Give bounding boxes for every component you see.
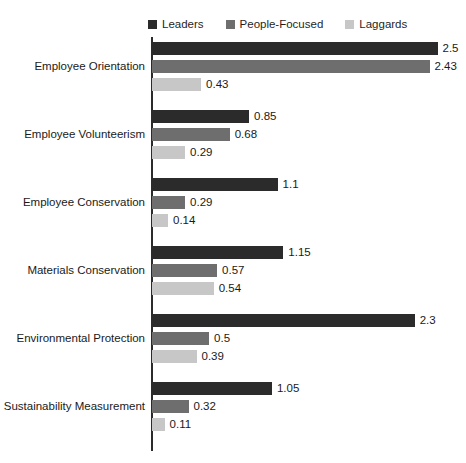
bar-row: 0.29 xyxy=(152,196,213,209)
bar-leaders[interactable] xyxy=(152,382,272,395)
bar-row: 0.39 xyxy=(152,350,224,363)
bar-value-label: 2.5 xyxy=(443,42,459,55)
bar-row: 0.85 xyxy=(152,110,276,123)
bar-group: Employee Orientation2.52.430.43 xyxy=(0,37,466,105)
category-axis-label: Environmental Protection xyxy=(0,332,145,345)
plot-area: Employee Orientation2.52.430.43Employee … xyxy=(0,37,466,452)
bar-leaders[interactable] xyxy=(152,42,438,55)
bar-row: 0.11 xyxy=(152,418,191,431)
bar-leaders[interactable] xyxy=(152,178,278,191)
bar-group: Employee Volunteerism0.850.680.29 xyxy=(0,105,466,173)
bar-value-label: 0.68 xyxy=(235,128,257,141)
bar-value-label: 1.1 xyxy=(283,178,299,191)
legend-item-leaders[interactable]: Leaders xyxy=(148,18,204,30)
bar-chart: LeadersPeople-FocusedLaggards Employee O… xyxy=(0,0,466,463)
bar-group: Employee Conservation1.10.290.14 xyxy=(0,173,466,241)
legend-swatch-icon xyxy=(345,20,354,29)
bar-laggards[interactable] xyxy=(152,350,197,363)
bar-row: 0.68 xyxy=(152,128,257,141)
bar-row: 0.32 xyxy=(152,400,216,413)
bar-row: 0.54 xyxy=(152,282,241,295)
category-axis-label: Employee Conservation xyxy=(0,196,145,209)
bar-value-label: 1.05 xyxy=(277,382,299,395)
bar-value-label: 1.15 xyxy=(288,246,310,259)
bar-value-label: 0.85 xyxy=(254,110,276,123)
bar-laggards[interactable] xyxy=(152,282,214,295)
bar-value-label: 0.39 xyxy=(202,350,224,363)
bar-value-label: 0.57 xyxy=(222,264,244,277)
bar-row: 2.5 xyxy=(152,42,459,55)
bar-row: 1.1 xyxy=(152,178,299,191)
bar-value-label: 0.29 xyxy=(190,146,212,159)
bar-laggards[interactable] xyxy=(152,418,165,431)
bar-laggards[interactable] xyxy=(152,214,168,227)
bar-people-focused[interactable] xyxy=(152,264,217,277)
legend-swatch-icon xyxy=(226,20,235,29)
category-axis-label: Sustainability Measurement xyxy=(0,400,145,413)
category-axis-label: Employee Orientation xyxy=(0,60,145,73)
bar-leaders[interactable] xyxy=(152,110,249,123)
bar-row: 2.3 xyxy=(152,314,436,327)
bar-leaders[interactable] xyxy=(152,314,415,327)
bar-people-focused[interactable] xyxy=(152,400,189,413)
bar-value-label: 0.29 xyxy=(190,196,212,209)
bar-people-focused[interactable] xyxy=(152,332,209,345)
legend-label: Leaders xyxy=(162,18,204,30)
bar-people-focused[interactable] xyxy=(152,128,230,141)
bar-group: Environmental Protection2.30.50.39 xyxy=(0,309,466,377)
category-axis-label: Employee Volunteerism xyxy=(0,128,145,141)
bar-row: 1.05 xyxy=(152,382,299,395)
bar-row: 0.14 xyxy=(152,214,195,227)
bar-people-focused[interactable] xyxy=(152,196,185,209)
legend-item-people-focused[interactable]: People-Focused xyxy=(226,18,324,30)
bar-laggards[interactable] xyxy=(152,78,201,91)
bar-group: Materials Conservation1.150.570.54 xyxy=(0,241,466,309)
bar-group: Sustainability Measurement1.050.320.11 xyxy=(0,377,466,445)
bar-value-label: 2.3 xyxy=(420,314,436,327)
chart-legend: LeadersPeople-FocusedLaggards xyxy=(148,17,429,31)
bar-row: 0.57 xyxy=(152,264,244,277)
bar-row: 1.15 xyxy=(152,246,311,259)
category-axis-label: Materials Conservation xyxy=(0,264,145,277)
bar-row: 0.29 xyxy=(152,146,213,159)
bar-row: 0.43 xyxy=(152,78,228,91)
bar-value-label: 0.32 xyxy=(194,400,216,413)
bar-row: 0.5 xyxy=(152,332,230,345)
bar-people-focused[interactable] xyxy=(152,60,430,73)
bar-value-label: 2.43 xyxy=(435,60,457,73)
legend-item-laggards[interactable]: Laggards xyxy=(345,18,407,30)
bar-value-label: 0.5 xyxy=(214,332,230,345)
legend-label: People-Focused xyxy=(240,18,324,30)
bar-leaders[interactable] xyxy=(152,246,283,259)
bar-laggards[interactable] xyxy=(152,146,185,159)
bar-value-label: 0.54 xyxy=(219,282,241,295)
legend-swatch-icon xyxy=(148,20,157,29)
legend-label: Laggards xyxy=(359,18,407,30)
bar-row: 2.43 xyxy=(152,60,457,73)
bar-value-label: 0.11 xyxy=(170,418,192,431)
bar-value-label: 0.14 xyxy=(173,214,195,227)
bar-value-label: 0.43 xyxy=(206,78,228,91)
